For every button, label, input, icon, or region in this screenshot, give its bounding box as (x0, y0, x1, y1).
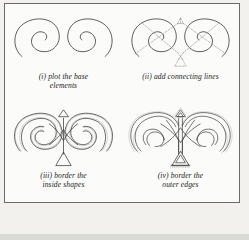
spirals-with-dashed-connectors (122, 10, 239, 70)
dashed-connecting-lines (137, 18, 224, 66)
panel-ii-caption-line-1: (ii) add connecting lines (142, 72, 219, 81)
panel-iv: (iv) border the outer edges (122, 103, 239, 202)
panel-iv-caption-line-1: (iv) border the (158, 171, 204, 180)
panel-iii-caption-line-2: inside shapes (40, 180, 86, 189)
inside-shapes-bordered (5, 107, 122, 169)
panel-iii: (iii) border the inside shapes (5, 103, 122, 202)
panel-i-caption-line-2: elements (39, 81, 89, 90)
panel-iii-caption-line-1: (iii) border the (40, 171, 86, 180)
interlace-bands (131, 110, 231, 165)
panel-iv-caption-line-2: outer edges (158, 180, 204, 189)
inside-shape-outlines (14, 110, 112, 165)
panel-i: (i) plot the base elements (5, 4, 122, 103)
panel-i-caption-line-1: (i) plot the base (39, 72, 89, 81)
panel-iv-caption: (iv) border the outer edges (154, 171, 208, 190)
outer-edge-dotting (129, 108, 232, 167)
panel-ii-caption: (ii) add connecting lines (138, 72, 223, 81)
figure-frame: (i) plot the base elements (4, 3, 240, 203)
outer-edges-bordered (122, 107, 239, 169)
panel-grid: (i) plot the base elements (5, 4, 239, 202)
two-mirrored-spirals (5, 10, 122, 70)
panel-iii-caption: (iii) border the inside shapes (36, 171, 90, 190)
panel-i-caption: (i) plot the base elements (35, 72, 93, 91)
panel-ii: (ii) add connecting lines (122, 4, 239, 103)
